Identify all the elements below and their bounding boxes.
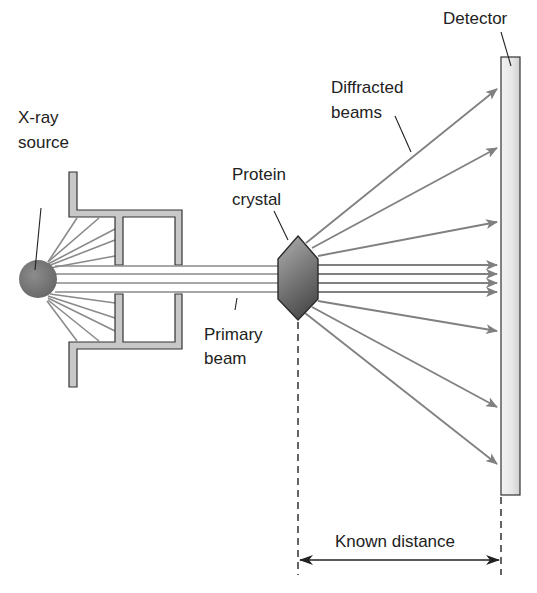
xray-source-sphere [19, 260, 57, 298]
diffracted-beams [305, 89, 497, 464]
label-protein-crystal-2: crystal [232, 190, 281, 209]
detector-plate [501, 57, 520, 495]
label-diffracted-beams-2: beams [331, 103, 382, 122]
label-xray-source-1: X-ray [18, 108, 59, 127]
label-detector: Detector [443, 9, 508, 28]
primary-beam [55, 266, 283, 292]
label-primary-beam-1: Primary [204, 325, 263, 344]
xray-diffraction-diagram: X-ray source Protein crystal Diffracted … [0, 0, 537, 593]
transmitted-beams [318, 265, 497, 292]
label-primary-beam-2: beam [204, 349, 247, 368]
label-known-distance: Known distance [335, 532, 455, 551]
label-protein-crystal-1: Protein [232, 165, 286, 184]
label-diffracted-beams-1: Diffracted [331, 78, 403, 97]
label-xray-source-2: source [18, 133, 69, 152]
source-fan-rays [47, 218, 115, 341]
collimator-housing [69, 172, 182, 387]
